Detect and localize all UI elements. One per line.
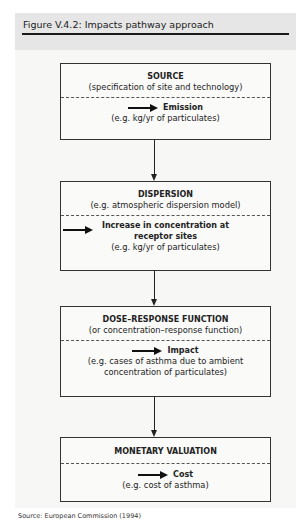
- impact-detail-line2: concentration of particulates): [61, 367, 270, 378]
- cost-detail: (e.g. cost of asthma): [61, 480, 270, 491]
- dispersion-heading: DISPERSION: [61, 189, 270, 200]
- cost-label: Cost: [173, 469, 193, 480]
- impact-label: Impact: [167, 345, 198, 356]
- concentration-detail: (e.g. kg/yr of particulates): [61, 242, 270, 253]
- source-subheading: (specification of site and technology): [61, 82, 270, 93]
- flow-connector: [154, 140, 155, 174]
- figure-header: Figure V.4.2: Impacts pathway approach: [15, 13, 296, 50]
- dispersion-box: DISPERSION (e.g. atmospheric dispersion …: [60, 181, 271, 271]
- source-box: SOURCE (specification of site and techno…: [60, 63, 271, 140]
- title-rule: [22, 33, 289, 35]
- down-arrow-icon: [151, 430, 157, 437]
- impact-detail-line1: (e.g. cases of asthma due to ambient: [61, 356, 270, 367]
- down-arrow-icon: [151, 299, 157, 306]
- source-heading: SOURCE: [61, 71, 270, 82]
- monetary-heading: MONETARY VALUATION: [61, 446, 270, 457]
- figure-source: Source: European Commission (1994): [18, 512, 141, 520]
- monetary-valuation-box: MONETARY VALUATION Cost (e.g. cost of as…: [60, 437, 271, 502]
- emission-label: Emission: [163, 102, 203, 113]
- emission-detail: (e.g. kg/yr of particulates): [61, 113, 270, 124]
- dose-response-subheading: (or concentration–response function): [61, 325, 270, 336]
- right-arrow-icon: [132, 347, 162, 355]
- right-arrow-icon: [138, 471, 168, 479]
- flow-connector: [154, 397, 155, 430]
- dose-response-box: DOSE–RESPONSE FUNCTION (or concentration…: [60, 306, 271, 397]
- figure-title: Figure V.4.2: Impacts pathway approach: [23, 19, 214, 30]
- dispersion-subheading: (e.g. atmospheric dispersion model): [61, 200, 270, 211]
- right-arrow-icon: [128, 104, 158, 112]
- right-arrow-icon: [63, 226, 93, 234]
- down-arrow-icon: [151, 174, 157, 181]
- flow-connector: [154, 271, 155, 299]
- dose-response-heading: DOSE–RESPONSE FUNCTION: [61, 314, 270, 325]
